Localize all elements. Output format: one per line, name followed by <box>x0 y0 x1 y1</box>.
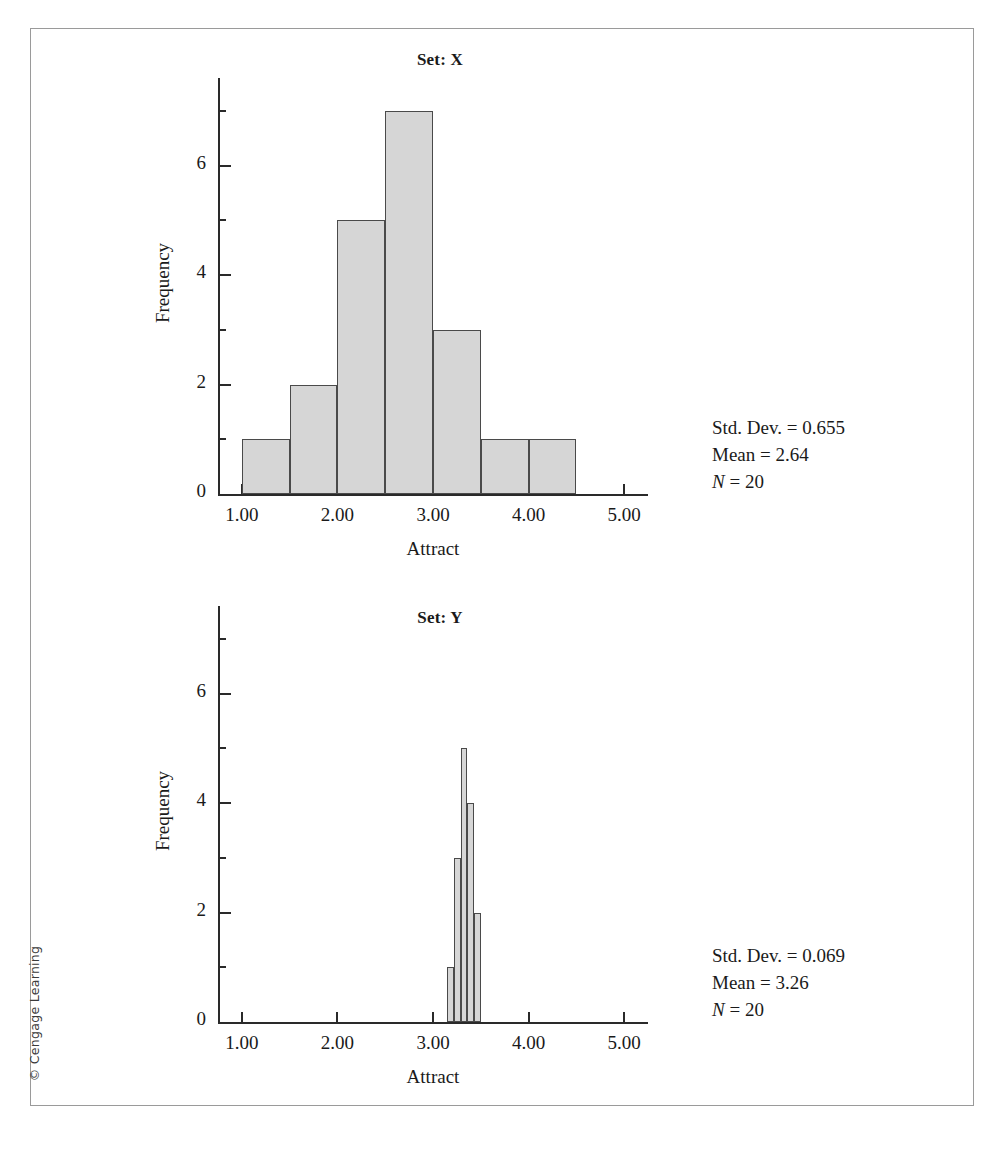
x-tick <box>623 1012 625 1022</box>
x-axis-title: Attract <box>178 1066 688 1088</box>
x-tick <box>528 1012 530 1022</box>
plot-area-set-y: 02461.002.003.004.005.00AttractFrequency… <box>0 0 997 1154</box>
stat-n-symbol: N <box>712 999 725 1020</box>
x-tick-label: 4.00 <box>479 1032 579 1054</box>
histogram-bar <box>461 748 468 1022</box>
histogram-bar <box>454 858 461 1022</box>
y-tick-major <box>220 912 231 914</box>
y-axis-line <box>218 606 220 1023</box>
stat-mean: Mean = 3.26 <box>712 970 845 997</box>
y-tick-minor <box>220 857 226 859</box>
x-tick-label: 5.00 <box>574 1032 674 1054</box>
stat-n: N = 20 <box>712 997 845 1024</box>
stats-annotation: Std. Dev. = 0.069Mean = 3.26N = 20 <box>712 943 845 1024</box>
x-tick-label: 2.00 <box>287 1032 387 1054</box>
y-tick-label: 2 <box>156 899 206 921</box>
y-tick-label: 6 <box>156 680 206 702</box>
x-axis-line <box>218 1022 648 1024</box>
stat-n-value: = 20 <box>725 999 764 1020</box>
y-tick-major <box>220 693 231 695</box>
y-tick-minor <box>220 638 226 640</box>
histogram-bar <box>467 803 474 1022</box>
x-tick <box>336 1012 338 1022</box>
y-tick-minor <box>220 966 226 968</box>
y-tick-major <box>220 802 231 804</box>
x-tick-label: 1.00 <box>192 1032 292 1054</box>
histogram-bar <box>447 967 454 1022</box>
histogram-set-y: Set: Y 02461.002.003.004.005.00AttractFr… <box>0 0 997 1154</box>
stat-std-dev: Std. Dev. = 0.069 <box>712 943 845 970</box>
y-tick-label: 0 <box>156 1008 206 1030</box>
y-axis-title: Frequency <box>152 721 174 901</box>
histogram-bar <box>474 913 481 1022</box>
x-tick <box>432 1012 434 1022</box>
x-tick <box>241 1012 243 1022</box>
x-tick-label: 3.00 <box>383 1032 483 1054</box>
y-tick-minor <box>220 747 226 749</box>
figure-page: © Cengage Learning Set: X 02461.002.003.… <box>0 0 997 1154</box>
